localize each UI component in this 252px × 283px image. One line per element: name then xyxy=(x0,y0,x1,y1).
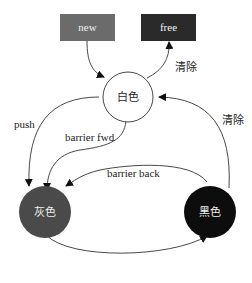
node-white-label: 白色 xyxy=(117,90,139,103)
label-barrier-fwd: barrier fwd xyxy=(65,131,115,143)
label-black-to-white: 清除 xyxy=(222,113,244,126)
label-barrier-back: barrier back xyxy=(107,167,160,179)
edge-white-to-free xyxy=(147,42,169,78)
node-free-label: free xyxy=(160,21,177,33)
label-white-to-free: 清除 xyxy=(175,60,197,73)
gc-tricolor-diagram: new free 白色 灰色 黑色 清除 清除 push barrier fwd… xyxy=(0,0,252,283)
node-new-label: new xyxy=(78,21,96,33)
node-black-label: 黑色 xyxy=(199,205,221,218)
edge-gray-to-black-pop xyxy=(46,235,207,253)
edge-new-to-white xyxy=(87,41,104,77)
edge-black-to-white-clear xyxy=(159,97,229,188)
node-gray-label: 灰色 xyxy=(34,205,56,218)
label-push: push xyxy=(14,118,35,130)
